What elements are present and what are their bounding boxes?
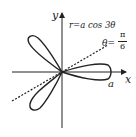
polar-diagram xyxy=(0,0,136,137)
curve-equation: r=a cos 3θ xyxy=(69,21,115,30)
petal-tip-label: a xyxy=(108,79,114,89)
theta-fraction-den: 6 xyxy=(120,43,125,51)
rose-curve xyxy=(28,36,111,110)
theta-line-label: θ= xyxy=(102,39,115,48)
y-axis-label: y xyxy=(52,10,58,21)
theta-line-lhs: θ= xyxy=(102,38,115,48)
x-axis-label: x xyxy=(125,74,131,85)
theta-fraction-num: π xyxy=(120,31,125,39)
